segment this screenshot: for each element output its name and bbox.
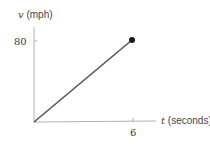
x-axis-unit: (seconds) <box>165 115 210 126</box>
x-axis-label: t (seconds) <box>161 115 210 126</box>
velocity-line <box>34 40 132 122</box>
x-tick-label: 6 <box>130 127 136 138</box>
x-axis <box>34 121 156 122</box>
y-axis-label: v (mph) <box>18 9 53 20</box>
velocity-time-chart: 80 6 v (mph) t (seconds) <box>0 0 210 144</box>
endpoint-marker <box>129 37 135 43</box>
y-tick-label: 80 <box>14 36 27 47</box>
y-axis-unit: (mph) <box>24 9 53 20</box>
